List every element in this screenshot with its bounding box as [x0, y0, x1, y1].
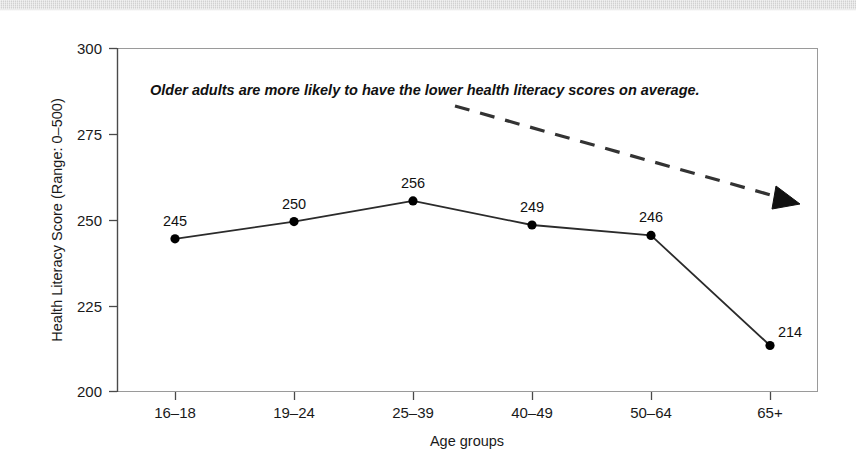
y-axis-tick-labels: 300 275 250 225 200 — [77, 40, 102, 400]
y-tick-label-250: 250 — [77, 212, 102, 229]
data-point-marker[interactable] — [646, 231, 655, 240]
line-chart-figure: 300 275 250 225 200 Health Literacy Scor… — [0, 0, 856, 473]
data-label-245: 245 — [163, 213, 187, 229]
x-tick-label-65plus: 65+ — [757, 404, 783, 421]
annotation-trend-note: Older adults are more likely to have the… — [150, 82, 700, 98]
data-label-256: 256 — [401, 175, 425, 191]
y-axis-ticks — [109, 49, 117, 392]
data-label-214: 214 — [778, 324, 802, 340]
data-point-marker[interactable] — [527, 220, 536, 229]
annotation-trend-arrow — [455, 106, 800, 209]
x-tick-label-50-64: 50–64 — [630, 404, 672, 421]
data-point-marker[interactable] — [289, 217, 298, 226]
x-tick-label-19-24: 19–24 — [273, 404, 315, 421]
x-tick-label-16-18: 16–18 — [154, 404, 196, 421]
x-tick-label-40-49: 40–49 — [511, 404, 553, 421]
data-label-249: 249 — [520, 199, 544, 215]
y-tick-label-275: 275 — [77, 126, 102, 143]
plot-frame — [117, 48, 818, 392]
y-tick-label-200: 200 — [77, 383, 102, 400]
data-point-marker[interactable] — [408, 196, 417, 205]
x-axis-ticks — [176, 392, 771, 400]
data-point-value-labels: 245 250 256 249 246 214 — [163, 175, 802, 340]
x-tick-label-25-39: 25–39 — [392, 404, 434, 421]
y-tick-label-300: 300 — [77, 40, 102, 57]
data-point-markers — [170, 196, 774, 350]
data-series-line — [175, 201, 770, 346]
data-label-246: 246 — [639, 209, 663, 225]
x-axis-tick-labels: 16–18 19–24 25–39 40–49 50–64 65+ — [154, 404, 783, 421]
data-point-marker[interactable] — [765, 341, 774, 350]
x-axis-title: Age groups — [430, 433, 504, 449]
y-axis-title: Health Literacy Score (Range: 0–500) — [49, 98, 65, 341]
y-tick-label-225: 225 — [77, 298, 102, 315]
data-point-marker[interactable] — [170, 234, 179, 243]
chart-canvas: 300 275 250 225 200 Health Literacy Scor… — [0, 0, 856, 473]
data-label-250: 250 — [282, 196, 306, 212]
